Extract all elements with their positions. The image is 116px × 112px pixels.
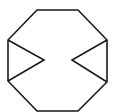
- octagon-figure: [0, 0, 116, 112]
- octagon-outline: [8, 10, 107, 111]
- diagram-canvas: [0, 0, 116, 112]
- left-triangle-notch: [8, 40, 44, 81]
- right-triangle-notch: [72, 40, 107, 82]
